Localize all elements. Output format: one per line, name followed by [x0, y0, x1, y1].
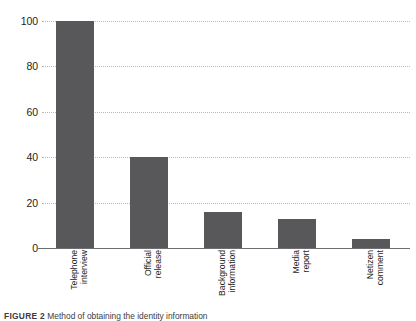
y-tick-label-100: 100 [4, 16, 38, 27]
y-tick-label-40: 40 [4, 152, 38, 163]
bar-official-release [130, 157, 168, 248]
x-label-line2: information [228, 250, 238, 312]
bar-media-report [278, 219, 316, 249]
figure-caption-text: Method of obtaining the identity informa… [47, 311, 207, 321]
figure-number: FIGURE 2 [4, 311, 45, 321]
x-label-line2: comment [376, 250, 386, 312]
y-tick-label-60: 60 [4, 107, 38, 118]
figure-bar-chart: 100 80 60 40 20 0 Telephone interview Of… [0, 0, 416, 321]
bar-background-information [204, 212, 242, 248]
y-tick-label-80: 80 [4, 61, 38, 72]
x-axis-line [38, 248, 410, 249]
bar-netizen-comment [352, 239, 390, 248]
figure-caption: FIGURE 2 Method of obtaining the identit… [4, 311, 412, 321]
bar-series [42, 21, 410, 248]
x-label-background-information: Background information [218, 250, 232, 312]
x-label-telephone-interview: Telephone interview [70, 250, 84, 312]
y-tick-label-20: 20 [4, 198, 38, 209]
x-label-line2: release [154, 250, 164, 312]
bar-telephone-interview [56, 21, 94, 248]
x-label-media-report: Media report [292, 250, 306, 312]
x-label-line2: interview [80, 250, 90, 312]
y-tick-label-0: 0 [4, 243, 38, 254]
x-label-netizen-comment: Netizen comment [366, 250, 380, 312]
x-label-line2: report [302, 250, 312, 312]
x-label-official-release: Official release [144, 250, 158, 312]
x-axis-labels: Telephone interview Official release Bac… [42, 250, 410, 312]
